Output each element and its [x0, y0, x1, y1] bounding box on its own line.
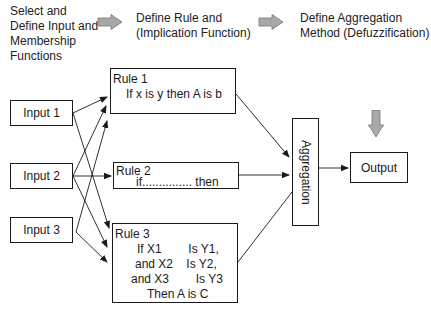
input-3-label: Input 3 — [23, 223, 60, 237]
input-1-label: Input 1 — [23, 106, 60, 120]
rule-1-title: Rule 1 — [113, 72, 148, 86]
rule-3-line-1: If X1 Is Y1, — [137, 242, 219, 257]
rule-3-title: Rule 3 — [115, 227, 150, 241]
rule-1-body: If x is y then A is b — [126, 87, 222, 102]
rule-3-box: Rule 3 If X1 Is Y1, and X2 Is Y2, and X3… — [112, 223, 238, 303]
input-2-box: Input 2 — [10, 163, 73, 189]
aggregation-label: Aggregation — [299, 140, 313, 205]
rule-2-body: if............... then — [136, 175, 219, 190]
output-label: Output — [361, 161, 397, 175]
input-3-box: Input 3 — [10, 217, 73, 243]
input-2-label: Input 2 — [23, 169, 60, 183]
rule-3-line-3: and X3 Is Y3 — [131, 272, 223, 287]
rule-3-line-2: and X2 Is Y2, — [135, 257, 217, 272]
down-block-arrow-icon — [368, 110, 384, 142]
rule-2-box: Rule 2 if............... then — [113, 162, 239, 189]
rule-1-box: Rule 1 If x is y then A is b — [110, 68, 236, 114]
rule-3-line-4: Then A is C — [147, 287, 208, 302]
input-1-box: Input 1 — [10, 100, 73, 126]
aggregation-box: Aggregation — [292, 118, 319, 226]
output-box: Output — [350, 152, 408, 183]
